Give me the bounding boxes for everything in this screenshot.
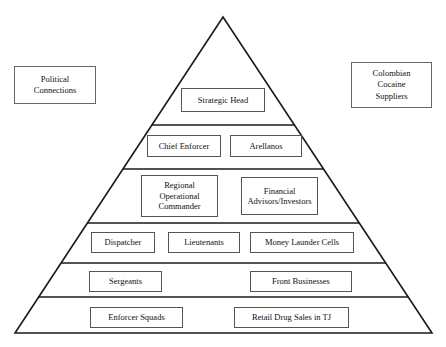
pyramid-node-label: Regional Operational Commander bbox=[158, 180, 200, 211]
pyramid-node-label: Retail Drug Sales in TJ bbox=[252, 312, 331, 322]
pyramid-node-label: Financial Advisors/Investors bbox=[247, 186, 311, 207]
pyramid-node-label: Lieutenants bbox=[184, 237, 224, 247]
pyramid-node-front-businesses[interactable]: Front Businesses bbox=[250, 271, 352, 292]
pyramid-diagram-canvas: Strategic HeadChief EnforcerArellanosReg… bbox=[0, 0, 446, 347]
pyramid-node-arellanos[interactable]: Arellanos bbox=[230, 135, 302, 157]
side-box-label: Colombian Cocaine Suppliers bbox=[373, 68, 411, 101]
pyramid-node-regional-operational-commander[interactable]: Regional Operational Commander bbox=[141, 175, 218, 217]
pyramid-node-label: Strategic Head bbox=[198, 95, 248, 105]
pyramid-node-dispatcher[interactable]: Dispatcher bbox=[91, 232, 155, 253]
pyramid-node-label: Dispatcher bbox=[105, 237, 142, 247]
pyramid-node-retail-drug-sales-in-tj[interactable]: Retail Drug Sales in TJ bbox=[234, 307, 349, 328]
side-box-label: Political Connections bbox=[34, 74, 77, 96]
pyramid-node-financial-advisors-investors[interactable]: Financial Advisors/Investors bbox=[241, 177, 318, 215]
pyramid-node-strategic-head[interactable]: Strategic Head bbox=[181, 88, 265, 112]
pyramid-node-label: Money Launder Cells bbox=[265, 237, 339, 247]
pyramid-outline bbox=[0, 0, 446, 347]
pyramid-node-label: Chief Enforcer bbox=[159, 141, 210, 151]
pyramid-node-label: Sergeants bbox=[109, 276, 142, 286]
pyramid-node-chief-enforcer[interactable]: Chief Enforcer bbox=[147, 135, 221, 157]
pyramid-node-label: Enforcer Squads bbox=[108, 312, 164, 322]
pyramid-node-label: Front Businesses bbox=[272, 276, 330, 286]
pyramid-node-label: Arellanos bbox=[249, 141, 282, 151]
side-box-political-connections[interactable]: Political Connections bbox=[14, 66, 96, 104]
pyramid-node-sergeants[interactable]: Sergeants bbox=[89, 271, 162, 292]
pyramid-node-lieutenants[interactable]: Lieutenants bbox=[168, 232, 240, 253]
pyramid-node-money-launder-cells[interactable]: Money Launder Cells bbox=[250, 232, 354, 253]
side-box-colombian-cocaine-suppliers[interactable]: Colombian Cocaine Suppliers bbox=[351, 62, 432, 108]
pyramid-node-enforcer-squads[interactable]: Enforcer Squads bbox=[90, 307, 183, 328]
